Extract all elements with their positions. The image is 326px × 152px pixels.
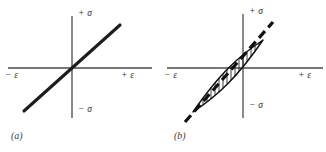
loop-hatching <box>195 20 267 130</box>
figure-container: + σ − σ − ε + ε (a) <box>0 0 326 152</box>
axis-label-sigma-negative-b: − σ <box>249 100 263 110</box>
axis-label-sigma-positive-a: + σ <box>78 8 92 18</box>
axis-label-epsilon-negative-a: − ε <box>5 70 18 80</box>
panel-a: + σ − σ − ε + ε (a) <box>0 0 163 152</box>
panel-caption-a: (a) <box>11 130 23 141</box>
panel-caption-b: (b) <box>174 130 186 141</box>
panel-a-graphic <box>0 0 163 152</box>
axis-label-epsilon-negative-b: − ε <box>164 70 177 80</box>
axis-label-epsilon-positive-a: + ε <box>121 70 134 80</box>
panel-b: + σ − σ − ε + ε (b) <box>163 0 326 152</box>
axis-label-sigma-positive-b: + σ <box>249 6 263 16</box>
axis-label-sigma-negative-a: − σ <box>78 104 92 114</box>
axis-label-epsilon-positive-b: + ε <box>298 70 311 80</box>
